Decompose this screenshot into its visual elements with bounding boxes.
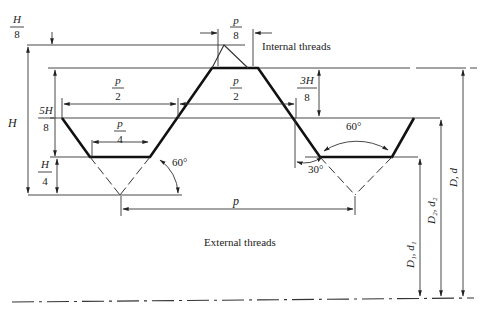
svg-text:D₂, d₂: D₂, d₂	[425, 197, 437, 225]
dim-3h-over-8: 3H 8	[297, 70, 319, 116]
angle-60-right: 60°	[324, 120, 388, 151]
dim-p-over-4: p 4	[92, 117, 148, 157]
external-threads-label: External threads	[204, 236, 276, 248]
svg-text:60°: 60°	[172, 156, 187, 168]
angle-60-left: 60°	[160, 156, 187, 193]
dim-d-pitch: D₂, d₂	[425, 120, 441, 296]
svg-text:2: 2	[233, 90, 239, 102]
thread-profile-diagram: H 8 H 5H 8 H 4 p 8 Internal threads p	[0, 0, 487, 314]
svg-text:8: 8	[43, 121, 49, 133]
svg-text:p: p	[116, 117, 123, 129]
dim-d-minor: D₁, d₁	[404, 159, 420, 296]
dim-h-over-8: H 8	[10, 13, 52, 44]
svg-text:D₁, d₁: D₁, d₁	[404, 241, 416, 269]
svg-text:H: H	[40, 158, 50, 170]
svg-text:p: p	[232, 74, 239, 86]
svg-text:H: H	[12, 13, 22, 25]
svg-text:8: 8	[304, 91, 310, 103]
svg-text:5H: 5H	[39, 104, 54, 116]
svg-text:H: H	[7, 116, 18, 130]
svg-text:60°: 60°	[346, 120, 361, 132]
dim-5h-over-8: 5H 8	[38, 70, 55, 156]
internal-threads-label: Internal threads	[262, 40, 331, 52]
svg-text:4: 4	[42, 175, 48, 187]
svg-text:p: p	[114, 74, 121, 86]
svg-text:p: p	[232, 194, 239, 208]
dim-h: H	[7, 47, 28, 193]
svg-text:8: 8	[233, 29, 239, 41]
svg-text:p: p	[232, 14, 239, 26]
dim-d-major: D, d	[447, 70, 463, 296]
svg-text:D, d: D, d	[447, 168, 459, 188]
axis-centerline	[12, 298, 474, 302]
svg-text:30°: 30°	[308, 163, 323, 175]
dim-p-over-2-left: p 2	[62, 74, 178, 118]
svg-text:4: 4	[117, 133, 123, 145]
svg-text:8: 8	[14, 28, 20, 40]
svg-text:2: 2	[115, 90, 121, 102]
dim-p: p	[121, 194, 355, 216]
fundamental-triangle-dashes	[90, 157, 392, 195]
dim-h-over-4: H 4	[38, 158, 57, 193]
svg-text:3H: 3H	[299, 74, 315, 86]
